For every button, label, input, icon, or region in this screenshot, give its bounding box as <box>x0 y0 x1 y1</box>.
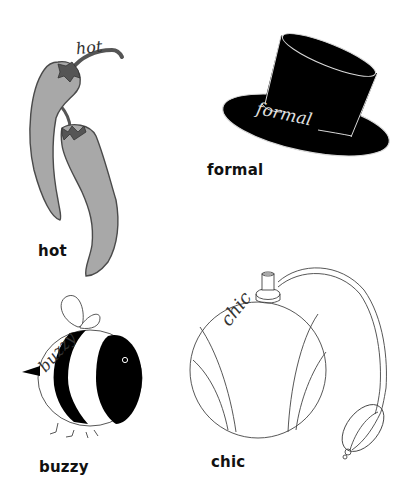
label-formal: formal <box>207 161 263 179</box>
chic-script-text: chic <box>216 287 256 329</box>
label-buzzy: buzzy <box>39 458 89 476</box>
hot-script-text: hot <box>75 36 104 58</box>
top-hat-icon <box>217 26 394 168</box>
label-hot: hot <box>38 242 67 260</box>
label-chic: chic <box>211 453 245 471</box>
perfume-bottle-icon <box>190 268 392 459</box>
